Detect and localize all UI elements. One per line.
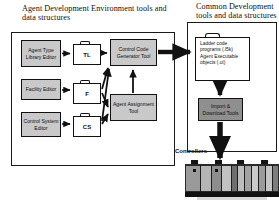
agent-assignment-tool-box[interactable]: Agent Assignment Tool — [110, 94, 157, 121]
plc-controller-rack-image — [185, 160, 279, 204]
facility-editor-label: Facility Editor — [26, 86, 57, 92]
control-code-generator-tool-label: Control Code Generator Tool — [112, 46, 155, 58]
agent-assignment-tool-label: Agent Assignment Tool — [112, 101, 155, 113]
tl-folder-icon[interactable]: TL — [73, 41, 101, 65]
architecture-diagram: Agent Development Environment tools and … — [0, 0, 279, 206]
artifacts-folder-body: Ladder code programs (.l5k) Agent Execut… — [195, 37, 250, 81]
agent-type-library-editor-label: Agent Type Library Editor — [23, 47, 59, 59]
control-system-editor-box[interactable]: Control System Editor — [21, 112, 61, 137]
control-system-editor-label: Control System Editor — [23, 118, 59, 130]
agent-type-library-editor-box[interactable]: Agent Type Library Editor — [21, 40, 61, 67]
artifact-line-4: objects (.ul) — [200, 60, 246, 66]
controllers-label: Controllers — [175, 148, 207, 154]
facility-editor-box[interactable]: Facility Editor — [21, 79, 61, 100]
control-code-generator-tool-box[interactable]: Control Code Generator Tool — [110, 39, 157, 66]
f-folder-icon[interactable]: F — [73, 80, 101, 104]
tl-folder-label: TL — [73, 44, 101, 65]
f-folder-label: F — [73, 83, 101, 104]
artifacts-folder-icon[interactable]: Ladder code programs (.l5k) Agent Execut… — [195, 33, 250, 81]
cs-folder-label: CS — [73, 116, 101, 137]
import-download-tools-label: Import & Download Tools — [200, 103, 241, 115]
import-download-tools-box[interactable]: Import & Download Tools — [198, 98, 243, 121]
cs-folder-icon[interactable]: CS — [73, 113, 101, 137]
